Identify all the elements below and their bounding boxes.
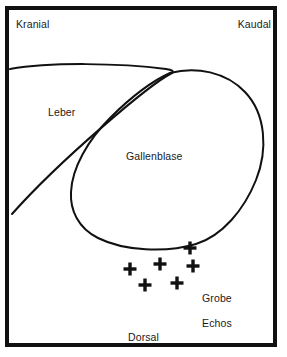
- finding-label-line2: Echos: [202, 317, 232, 329]
- anatomy-label-gallenblase: Gallenblase: [126, 150, 183, 163]
- diagram-canvas: [0, 0, 287, 357]
- anatomy-label-leber: Leber: [48, 106, 75, 119]
- plus-icon: [171, 277, 184, 290]
- plus-icon: [187, 260, 200, 273]
- plus-icon: [124, 263, 137, 276]
- orientation-label-dorsal: Dorsal: [0, 331, 287, 344]
- diagram-root: Kranial Kaudal Dorsal Leber Gallenblase …: [0, 0, 287, 357]
- finding-label-grobe-echos: Grobe Echos: [190, 279, 232, 342]
- finding-label-line1: Grobe: [202, 292, 232, 304]
- plus-icon: [154, 258, 167, 271]
- orientation-label-kaudal: Kaudal: [238, 18, 271, 31]
- plus-icon: [139, 279, 152, 292]
- orientation-label-kranial: Kranial: [16, 18, 49, 31]
